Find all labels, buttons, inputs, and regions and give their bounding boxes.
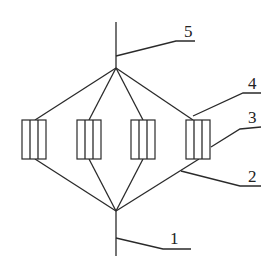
- component-3: [131, 120, 155, 159]
- lower-branch-2: [89, 159, 116, 211]
- diagram-canvas: 5 4 3 2 1: [0, 0, 277, 271]
- label-1: 1: [170, 229, 179, 248]
- upper-branch-2: [89, 68, 116, 120]
- label-4: 4: [248, 74, 257, 93]
- component-4: [186, 120, 210, 159]
- component-1: [22, 120, 46, 159]
- lower-branch-4: [116, 159, 199, 211]
- upper-branch-1: [35, 68, 116, 120]
- upper-branch-4: [116, 68, 193, 120]
- leader-3: [211, 127, 261, 147]
- leader-5: [116, 41, 195, 56]
- label-2: 2: [248, 167, 257, 186]
- label-3: 3: [248, 108, 257, 127]
- label-5: 5: [184, 22, 193, 41]
- diagram-svg: 5 4 3 2 1: [0, 0, 277, 271]
- component-2: [77, 120, 101, 159]
- upper-branch-3: [116, 68, 143, 120]
- leader-1: [116, 238, 191, 249]
- lower-branch-1: [35, 159, 116, 211]
